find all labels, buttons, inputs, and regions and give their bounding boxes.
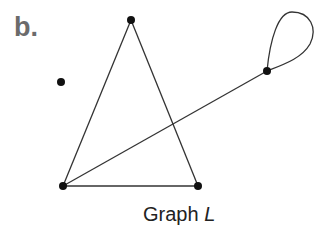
caption-prefix: Graph: [143, 203, 204, 225]
graph-name: L: [204, 203, 215, 225]
edges: [63, 12, 313, 186]
vertex-bottom-left: [59, 182, 67, 190]
graph-caption: Graph L: [143, 203, 215, 226]
edge-top-bottom-right: [131, 20, 198, 186]
vertex-bottom-right: [194, 182, 202, 190]
vertex-top: [127, 16, 135, 24]
vertex-isolated: [57, 78, 65, 86]
edge-bottom-left-loop-vertex: [63, 71, 267, 186]
edge-loop: [267, 12, 313, 71]
vertex-loop: [263, 67, 271, 75]
edge-top-bottom-left: [63, 20, 131, 186]
